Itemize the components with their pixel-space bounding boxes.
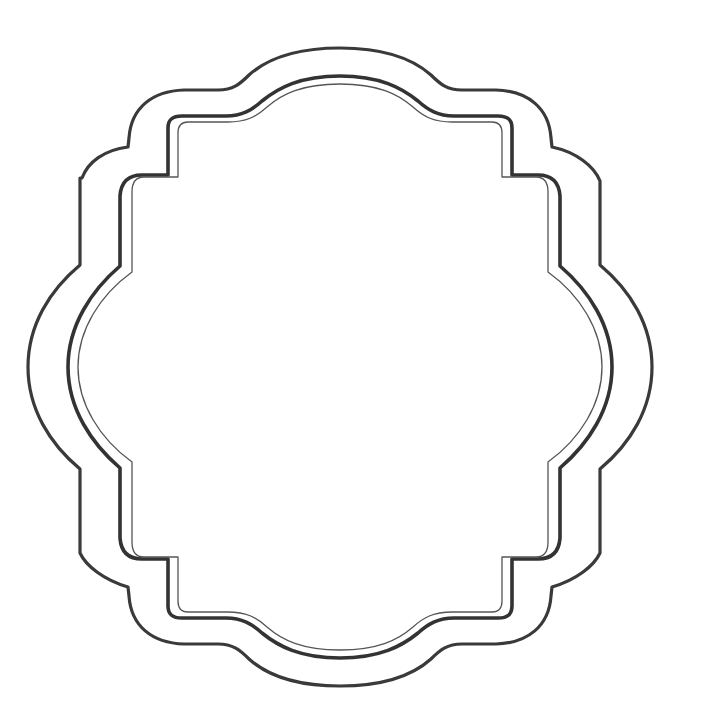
scalloped-frame <box>0 0 701 724</box>
inner-border-path <box>78 84 602 650</box>
outer-border-path <box>28 48 652 686</box>
middle-border-path <box>68 76 612 658</box>
